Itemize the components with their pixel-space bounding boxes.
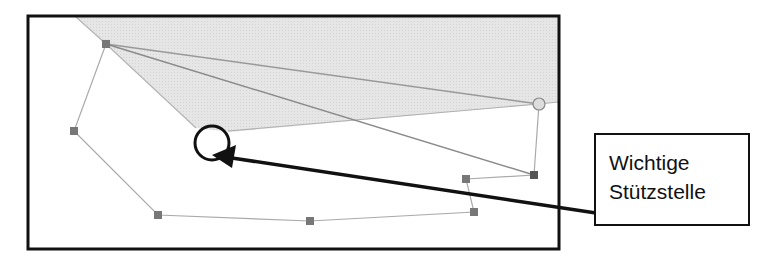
node-square xyxy=(154,211,162,219)
arrowhead-icon xyxy=(212,145,236,168)
node-square xyxy=(530,171,538,179)
node-square xyxy=(462,175,470,183)
callout-box: Wichtige Stützstelle xyxy=(594,133,750,226)
shaded-region xyxy=(76,17,558,132)
diagram-canvas: Wichtige Stützstelle xyxy=(0,0,779,264)
pointer-arrow-shaft xyxy=(232,158,596,213)
callout-label: Wichtige Stützstelle xyxy=(609,148,706,206)
node-square xyxy=(470,208,478,216)
node-square xyxy=(70,127,78,135)
node-square xyxy=(306,217,314,225)
node-square xyxy=(102,40,110,48)
callout-line-2: Stützstelle xyxy=(609,177,706,206)
node-circle xyxy=(533,98,545,110)
callout-line-1: Wichtige xyxy=(609,148,706,177)
